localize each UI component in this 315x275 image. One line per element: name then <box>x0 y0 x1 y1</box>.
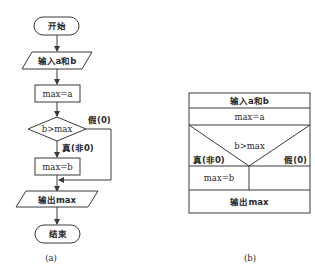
assign-a-label: max=a <box>42 89 72 99</box>
ns-false-label: 假(0) <box>284 155 307 165</box>
ns-true-label: 真(非0) <box>193 155 225 165</box>
assign-a-box: max=a <box>35 85 80 102</box>
ns-condition-label: b>max <box>234 141 265 151</box>
end-terminal: 结束 <box>35 225 80 243</box>
input-parallelogram: 输入a和b <box>22 52 92 69</box>
input-label: 输入a和b <box>38 56 77 66</box>
caption-a: (a) <box>45 253 57 263</box>
ns-outer-frame <box>189 93 310 213</box>
ns-input-label: 输入a和b <box>230 96 269 106</box>
caption-b: (b) <box>244 253 256 263</box>
assign-b-box: max=b <box>35 158 80 175</box>
start-label: 开始 <box>48 21 66 31</box>
ns-assign-a-label: max=a <box>234 112 264 122</box>
ns-assign-b-label: max=b <box>204 173 235 183</box>
true-label: 真(非0) <box>62 143 94 153</box>
decision-diamond: b>max <box>28 117 86 141</box>
output-label: 输出max <box>38 195 77 205</box>
ns-chart-b: 输入a和b max=a b>max 真(非0) 假(0) max=b 输出max… <box>189 93 310 263</box>
diagram-canvas: 开始 输入a和b max=a b>max 假(0) 真(非0) max=b <box>0 0 315 275</box>
false-label: 假(0) <box>88 115 111 125</box>
ns-output-label: 输出max <box>230 197 269 207</box>
assign-b-label: max=b <box>42 162 73 172</box>
flowchart-a: 开始 输入a和b max=a b>max 假(0) 真(非0) max=b <box>16 17 111 263</box>
end-label: 结束 <box>49 229 67 239</box>
output-parallelogram: 输出max <box>16 191 98 207</box>
start-terminal: 开始 <box>34 17 79 35</box>
decision-label: b>max <box>42 124 73 134</box>
